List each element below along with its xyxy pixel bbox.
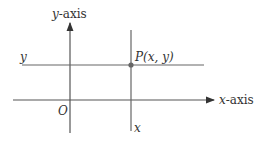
coordinate-diagram: y-axis x-axis O y x P(x, y)	[0, 0, 265, 143]
horizontal-line-label: y	[19, 50, 27, 64]
origin-label: O	[58, 104, 68, 118]
y-axis-label: y-axis	[51, 7, 87, 21]
vertical-line-label: x	[134, 121, 141, 135]
x-axis-label: x-axis	[219, 93, 254, 107]
point-p	[128, 62, 133, 67]
point-label: P(x, y)	[134, 50, 174, 64]
